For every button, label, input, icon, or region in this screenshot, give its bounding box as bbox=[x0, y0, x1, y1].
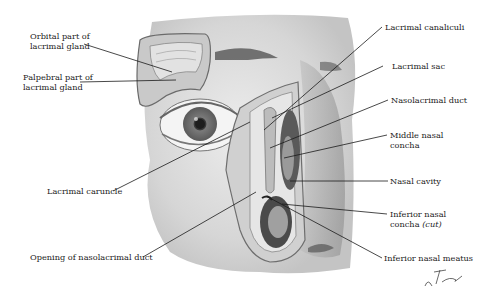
label-line: concha bbox=[390, 140, 443, 150]
label-lacrimal-caruncle: Lacrimal caruncle bbox=[47, 186, 122, 196]
label-line: lacrimal gland bbox=[23, 82, 93, 92]
label-line: Inferior nasal bbox=[390, 209, 446, 219]
anatomy-figure: Orbital part of lacrimal gland Palpebral… bbox=[0, 0, 485, 296]
label-line: Orbital part of bbox=[30, 31, 90, 41]
label-line: lacrimal gland bbox=[30, 41, 90, 51]
label-lacrimal-sac: Lacrimal sac bbox=[392, 61, 445, 71]
label-line: Middle nasal bbox=[390, 130, 443, 140]
label-middle-nasal-concha: Middle nasal concha bbox=[390, 130, 443, 150]
signature bbox=[425, 270, 462, 286]
label-nasolacrimal-duct: Nasolacrimal duct bbox=[391, 95, 467, 105]
label-orbital-part: Orbital part of lacrimal gland bbox=[30, 31, 90, 51]
label-inferior-nasal-meatus: Inferior nasal meatus bbox=[384, 253, 473, 263]
label-lacrimal-canaliculi: Lacrimal canaliculi bbox=[385, 22, 464, 32]
label-line: concha (cut) bbox=[390, 219, 446, 229]
label-palpebral-part: Palpebral part of lacrimal gland bbox=[23, 72, 93, 92]
label-note: (cut) bbox=[422, 219, 442, 229]
label-inferior-nasal-concha: Inferior nasal concha (cut) bbox=[390, 209, 446, 229]
label-line: Palpebral part of bbox=[23, 72, 93, 82]
label-nasal-cavity: Nasal cavity bbox=[390, 176, 441, 186]
label-text: concha bbox=[390, 219, 420, 229]
lacrimal-sac bbox=[264, 107, 276, 193]
label-opening-nasolacrimal-duct: Opening of nasolacrimal duct bbox=[30, 252, 153, 262]
